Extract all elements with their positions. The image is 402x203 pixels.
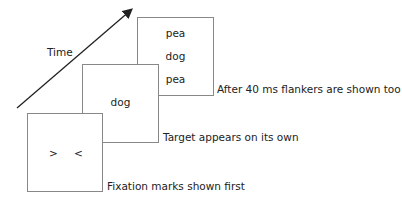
caption-fixation: Fixation marks shown first [107,180,245,192]
fixation-mark-right: < [74,147,83,159]
flanker-target: dog [138,50,213,62]
target-word: dog [83,96,158,108]
fixation-mark-left: > [49,147,58,159]
caption-flankers: After 40 ms flankers are shown too [217,83,401,95]
time-label: Time [47,46,73,58]
flanker-top: pea [138,27,213,39]
frame-fixation: > < [27,113,103,192]
caption-target: Target appears on its own [163,131,299,143]
